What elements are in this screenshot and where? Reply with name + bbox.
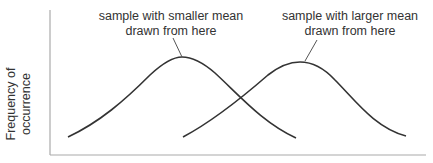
left-annotation-line2: drawn from here (61, 24, 281, 39)
right-annotation-leader (305, 40, 317, 61)
left-distribution-curve (68, 57, 296, 138)
right-annotation-line1: sample with larger mean (270, 9, 430, 24)
right-annotation-line2: drawn from here (270, 24, 430, 39)
left-annotation-leader (173, 38, 182, 57)
y-axis-label-line2: occurrence (19, 49, 34, 159)
left-annotation-line1: sample with smaller mean (61, 9, 281, 24)
y-axis-label: Frequency of occurrence (4, 49, 34, 159)
y-axis-label-line1: Frequency of (4, 49, 19, 159)
left-annotation: sample with smaller mean drawn from here (61, 9, 281, 39)
right-annotation: sample with larger mean drawn from here (270, 9, 430, 39)
right-distribution-curve (183, 62, 406, 137)
